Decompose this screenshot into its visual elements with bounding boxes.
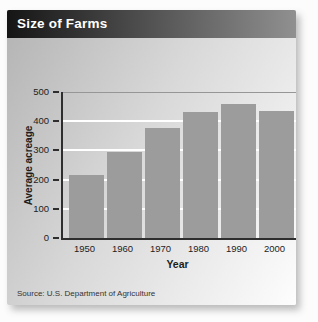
x-tick-label-1960: 1960 — [104, 243, 142, 254]
bar-1960 — [107, 152, 142, 238]
y-tick-mark-0 — [53, 237, 59, 239]
y-tick-label-0: 0 — [7, 232, 49, 243]
chart-title: Size of Farms — [7, 10, 296, 38]
y-tick-label-300: 300 — [7, 144, 49, 155]
bar-1970 — [145, 128, 180, 238]
y-tick-mark-100 — [53, 208, 59, 210]
y-tick-mark-200 — [53, 179, 59, 181]
x-tick-label-1990: 1990 — [218, 243, 256, 254]
x-axis-title: Year — [61, 258, 294, 270]
y-tick-mark-500 — [53, 91, 59, 93]
bar-1950 — [69, 175, 104, 238]
gridline-500 — [63, 92, 296, 94]
plot-area — [61, 92, 296, 240]
bar-1980 — [183, 112, 218, 238]
bar-2000 — [259, 111, 294, 238]
y-tick-label-100: 100 — [7, 203, 49, 214]
chart-card: Size of Farms Average acreage Year Sourc… — [7, 10, 296, 305]
chart-title-bar: Size of Farms — [7, 10, 296, 38]
bar-1990 — [221, 104, 256, 238]
x-tick-label-1950: 1950 — [66, 243, 104, 254]
y-tick-mark-400 — [53, 120, 59, 122]
x-tick-label-1970: 1970 — [142, 243, 180, 254]
y-tick-mark-300 — [53, 149, 59, 151]
y-tick-label-200: 200 — [7, 174, 49, 185]
y-tick-label-400: 400 — [7, 115, 49, 126]
x-tick-label-1980: 1980 — [180, 243, 218, 254]
x-tick-label-2000: 2000 — [256, 243, 294, 254]
source-note: Source: U.S. Department of Agriculture — [17, 289, 155, 298]
y-tick-label-500: 500 — [7, 86, 49, 97]
